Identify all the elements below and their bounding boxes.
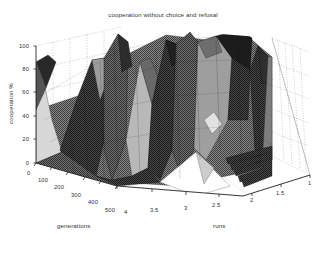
z-tick-label: 2.5 xyxy=(212,202,220,208)
figure-canvas: cooperation without choice and refusal c… xyxy=(0,0,326,255)
x-tick-label: 100 xyxy=(38,177,48,183)
z-axis-label: runs xyxy=(213,222,225,229)
surface-plot-graphic xyxy=(0,0,326,255)
z-tick-label: 4 xyxy=(124,209,127,215)
x-tick-label: 400 xyxy=(88,199,98,205)
y-axis-label: cooperation % xyxy=(7,81,14,127)
x-tick-label: 300 xyxy=(71,192,81,198)
z-tick-label: 3.5 xyxy=(150,207,158,213)
z-tick-label: 2 xyxy=(250,197,253,203)
surface-mesh xyxy=(36,30,272,196)
x-axis-label: generations xyxy=(57,222,90,229)
x-tick-label: 200 xyxy=(54,184,64,190)
y-tick-label: 0 xyxy=(9,160,29,166)
page-title: cooperation without choice and refusal xyxy=(0,11,326,18)
y-tick-label: 40 xyxy=(9,113,29,119)
x-tick-label: 0 xyxy=(27,170,30,176)
x-tick-label: 500 xyxy=(105,207,115,213)
y-tick-label: 60 xyxy=(9,89,29,95)
y-tick-label: 100 xyxy=(9,43,29,49)
z-tick-label: 1.5 xyxy=(276,190,284,196)
z-tick-label: 1 xyxy=(308,180,311,186)
z-tick-label: 3 xyxy=(184,205,187,211)
y-tick-label: 80 xyxy=(9,66,29,72)
y-tick-label: 20 xyxy=(9,136,29,142)
